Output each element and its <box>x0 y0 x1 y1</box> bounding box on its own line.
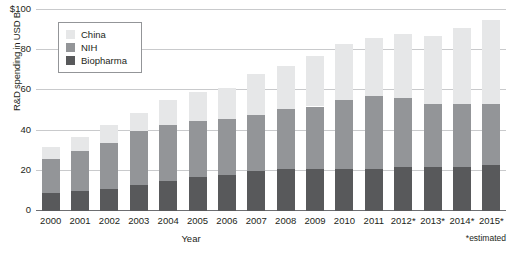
y-tick-label-0: 0 <box>26 205 31 215</box>
y-tick-label-20: 20 <box>20 165 31 175</box>
bar-2000 <box>42 147 60 211</box>
bar-segment-china <box>42 147 60 159</box>
bar-segment-china <box>189 92 207 120</box>
x-tick-label-2002: 2002 <box>95 216 124 226</box>
bar-segment-nih <box>482 104 500 164</box>
bar-segment-nih <box>453 104 471 166</box>
legend-item-label: China <box>81 30 106 40</box>
bar-segment-nih <box>159 125 177 181</box>
estimated-footnote: *estimated <box>466 233 506 243</box>
bar-segment-biopharma <box>365 169 383 211</box>
x-tick-label-2001: 2001 <box>65 216 94 226</box>
bar-segment-china <box>335 44 353 100</box>
legend-item-label: NIH <box>81 43 97 53</box>
bar-segment-china <box>100 125 118 143</box>
bar-segment-nih <box>71 151 89 191</box>
x-tick-label-2003: 2003 <box>124 216 153 226</box>
bar-segment-biopharma <box>130 185 148 211</box>
bar-2013-est <box>424 36 442 211</box>
bar-segment-china <box>130 113 148 131</box>
bar-2010 <box>335 44 353 211</box>
bar-2015-est <box>482 20 500 211</box>
legend-swatch-icon <box>66 30 75 39</box>
bar-segment-nih <box>365 96 383 168</box>
y-tick-label-40: 40 <box>20 125 31 135</box>
x-axis-title: Year <box>36 233 346 244</box>
bar-2009 <box>306 56 324 211</box>
bar-2001 <box>71 137 89 211</box>
x-tick-label-2011: 2011 <box>359 216 388 226</box>
x-tick-label-2005: 2005 <box>183 216 212 226</box>
x-tick-label-2013-est: 2013* <box>418 216 447 226</box>
bar-segment-nih <box>218 119 236 175</box>
bar-segment-nih <box>100 143 118 189</box>
bar-2006 <box>218 88 236 211</box>
x-tick-label-2000: 2000 <box>36 216 65 226</box>
bar-segment-biopharma <box>159 181 177 211</box>
legend-item-biopharma[interactable]: Biopharma <box>66 54 127 67</box>
bar-2003 <box>130 113 148 211</box>
bar-segment-china <box>453 28 471 104</box>
bar-segment-nih <box>42 159 60 193</box>
bar-2007 <box>247 74 265 211</box>
bar-segment-biopharma <box>277 169 295 211</box>
x-tick-label-2007: 2007 <box>242 216 271 226</box>
x-tick-label-2015-est: 2015* <box>477 216 506 226</box>
bar-segment-china <box>482 20 500 104</box>
bar-segment-biopharma <box>306 169 324 211</box>
bar-segment-nih <box>189 121 207 177</box>
bar-segment-nih <box>277 109 295 169</box>
x-tick-label-2008: 2008 <box>271 216 300 226</box>
y-tick-label-60: 60 <box>20 85 31 95</box>
legend-item-china[interactable]: China <box>66 28 127 41</box>
bar-segment-nih <box>247 115 265 171</box>
bar-segment-biopharma <box>100 189 118 211</box>
bar-segment-biopharma <box>335 169 353 211</box>
legend-swatch-icon <box>66 43 75 52</box>
bar-segment-nih <box>424 104 442 166</box>
y-tick-label-80: 80 <box>20 44 31 54</box>
bar-segment-biopharma <box>71 191 89 211</box>
x-tick-label-2006: 2006 <box>212 216 241 226</box>
x-tick-label-2009: 2009 <box>300 216 329 226</box>
bar-2008 <box>277 66 295 211</box>
bar-2012-est <box>394 34 412 211</box>
legend-item-label: Biopharma <box>81 56 127 66</box>
chart-legend: ChinaNIHBiopharma <box>58 22 142 73</box>
bar-segment-china <box>365 38 383 96</box>
bar-segment-china <box>218 88 236 118</box>
bar-segment-biopharma <box>424 167 442 211</box>
x-tick-label-2010: 2010 <box>330 216 359 226</box>
bar-segment-biopharma <box>453 167 471 211</box>
bar-segment-china <box>394 34 412 98</box>
bar-segment-biopharma <box>482 165 500 211</box>
bar-segment-nih <box>306 107 324 169</box>
bar-segment-biopharma <box>189 177 207 211</box>
bar-segment-biopharma <box>394 167 412 211</box>
bar-segment-biopharma <box>42 193 60 211</box>
bar-segment-china <box>277 66 295 108</box>
x-tick-label-2014-est: 2014* <box>447 216 476 226</box>
bar-2014-est <box>453 28 471 211</box>
bar-2011 <box>365 38 383 211</box>
bar-segment-biopharma <box>247 171 265 211</box>
bar-segment-biopharma <box>218 175 236 211</box>
bar-segment-nih <box>335 100 353 168</box>
bar-2005 <box>189 92 207 211</box>
x-tick-label-2012-est: 2012* <box>389 216 418 226</box>
bar-segment-china <box>159 100 177 124</box>
bar-segment-china <box>424 36 442 104</box>
stacked-bar-chart: R&D spending in USD B 020406080$100 2000… <box>0 0 512 256</box>
bar-2004 <box>159 100 177 211</box>
bar-segment-nih <box>394 98 412 166</box>
y-tick-label-100: $100 <box>10 4 31 14</box>
legend-item-nih[interactable]: NIH <box>66 41 127 54</box>
legend-swatch-icon <box>66 56 75 65</box>
bar-segment-china <box>71 137 89 151</box>
bar-segment-nih <box>130 131 148 185</box>
x-tick-label-2004: 2004 <box>154 216 183 226</box>
bar-2002 <box>100 125 118 211</box>
bar-segment-china <box>247 74 265 114</box>
bar-segment-china <box>306 56 324 106</box>
